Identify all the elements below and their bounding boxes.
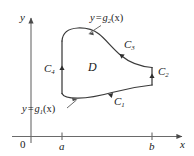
- origin-label: 0: [20, 139, 26, 150]
- tick-label-b: b: [149, 141, 155, 152]
- curve-label-c3-sub: 3: [131, 44, 134, 51]
- region-boundary: [62, 28, 152, 98]
- region-label-d: D: [88, 61, 97, 73]
- function-label-g2: y=g2(x): [90, 13, 123, 24]
- function-label-g2-sub: 2: [108, 17, 111, 24]
- arrow-c2-up: [149, 74, 154, 79]
- function-label-g1-arg: (x): [43, 103, 55, 114]
- function-label-g1-sub: 1: [40, 108, 43, 115]
- curve-c1-lower-boundary: [62, 85, 152, 98]
- curve-label-c2-sub: 2: [165, 71, 168, 78]
- tick-label-a: a: [59, 141, 65, 152]
- x-axis-label: x: [180, 139, 185, 150]
- axis-group: [12, 18, 182, 143]
- curve-label-c1-sub: 1: [121, 101, 124, 108]
- function-label-g2-equals: =: [95, 12, 103, 23]
- function-label-g1-equals: =: [27, 103, 35, 114]
- y-axis-label: y: [20, 12, 25, 23]
- function-label-g2-y: y: [90, 12, 95, 23]
- curve-label-c4-sub: 4: [51, 68, 54, 75]
- curve-label-c4: C4: [44, 63, 55, 74]
- curve-label-c3: C3: [124, 39, 135, 50]
- function-label-g1-y: y: [22, 103, 27, 114]
- arrow-c4-up: [59, 66, 64, 71]
- function-label-g1: y=g1(x): [22, 104, 55, 115]
- curve-label-c2: C2: [158, 66, 169, 77]
- orientation-arrows: [59, 54, 154, 98]
- leader-g1: [67, 100, 77, 108]
- curve-label-c1: C1: [114, 96, 125, 107]
- figure-canvas: y x 0 a b D C1 C2 C3 C4 y=g2(x) y=g1(x): [0, 0, 194, 156]
- function-label-g2-arg: (x): [111, 12, 123, 23]
- curve-c3-upper-boundary: [62, 28, 152, 68]
